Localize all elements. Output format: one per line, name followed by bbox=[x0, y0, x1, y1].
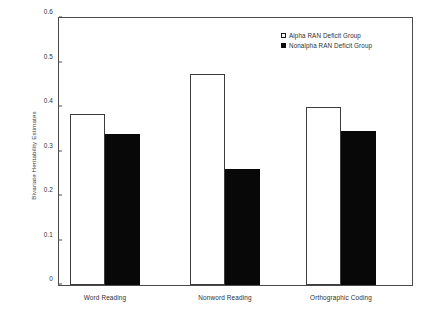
bar-chart-figure: Bivariate Heritability Estimates 00.10.2… bbox=[0, 0, 426, 315]
x-axis-label: Word Reading bbox=[84, 294, 127, 301]
plot-area: 00.10.20.30.40.50.6 Word ReadingNonword … bbox=[58, 17, 413, 286]
y-axis-tick-mark bbox=[59, 284, 62, 285]
bar bbox=[190, 74, 225, 285]
legend-item: Nonalpha RAN Deficit Group bbox=[281, 42, 372, 49]
y-axis-tick-label: 0.3 bbox=[44, 141, 59, 148]
y-axis-tick-mark bbox=[59, 195, 62, 196]
legend-item-label: Alpha RAN Deficit Group bbox=[289, 32, 361, 39]
y-axis-tick-label: 0.4 bbox=[44, 97, 59, 104]
y-axis-tick-mark bbox=[59, 17, 62, 18]
bar bbox=[105, 134, 140, 285]
bar bbox=[70, 114, 105, 285]
y-axis-tick-label: 0.6 bbox=[44, 8, 59, 15]
y-axis-tick-mark bbox=[59, 150, 62, 151]
y-axis-tick-label: 0 bbox=[49, 275, 59, 282]
legend-swatch-icon bbox=[281, 43, 286, 48]
y-axis-tick-mark bbox=[59, 239, 62, 240]
bar bbox=[225, 169, 260, 285]
legend-item: Alpha RAN Deficit Group bbox=[281, 32, 372, 39]
x-axis-label: Orthographic Coding bbox=[310, 294, 372, 301]
legend-swatch-icon bbox=[281, 33, 286, 38]
legend-item-label: Nonalpha RAN Deficit Group bbox=[289, 42, 372, 49]
y-axis-tick-label: 0.1 bbox=[44, 230, 59, 237]
y-axis-title: Bivariate Heritability Estimates bbox=[30, 61, 37, 251]
chart-legend: Alpha RAN Deficit GroupNonalpha RAN Defi… bbox=[281, 32, 372, 49]
y-axis-tick-label: 0.2 bbox=[44, 186, 59, 193]
x-axis-label: Nonword Reading bbox=[198, 294, 251, 301]
y-axis-tick-label: 0.5 bbox=[44, 52, 59, 59]
bar bbox=[341, 131, 376, 285]
bar bbox=[306, 107, 341, 285]
y-axis-tick-mark bbox=[59, 61, 62, 62]
y-axis-tick-mark bbox=[59, 106, 62, 107]
